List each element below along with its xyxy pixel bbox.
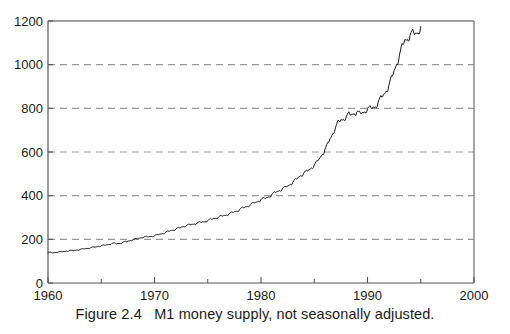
gridlines (48, 65, 474, 240)
x-ticks (48, 277, 474, 283)
x-tick-label-1980: 1980 (247, 288, 276, 303)
x-tick-label-1970: 1970 (140, 288, 169, 303)
m1-money-supply-chart: 0200400600800100012001960197019801990200… (0, 0, 510, 334)
figure-caption: Figure 2.4 M1 money supply, not seasonal… (0, 306, 510, 322)
y-tick-label-400: 400 (21, 188, 43, 203)
y-tick-label-1000: 1000 (14, 57, 43, 72)
y-tick-label-800: 800 (21, 101, 43, 116)
y-tick-label-1200: 1200 (14, 14, 43, 29)
x-tick-labels: 19601970198019902000 (34, 288, 489, 303)
y-tick-label-600: 600 (21, 145, 43, 160)
x-tick-label-2000: 2000 (460, 288, 489, 303)
figure-container: 0200400600800100012001960197019801990200… (0, 0, 510, 334)
series-line-m1-money-supply (48, 27, 421, 253)
x-tick-label-1990: 1990 (353, 288, 382, 303)
y-tick-label-200: 200 (21, 232, 43, 247)
x-tick-label-1960: 1960 (34, 288, 63, 303)
y-tick-labels: 020040060080010001200 (14, 14, 43, 291)
y-ticks (48, 21, 53, 283)
